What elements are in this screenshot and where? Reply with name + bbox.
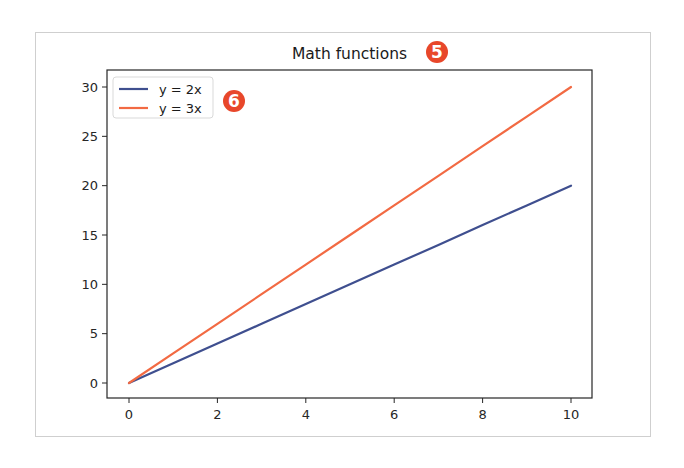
y-axis: 051015202530 — [81, 80, 107, 391]
legend-label-2: y = 3x — [159, 101, 202, 116]
y-tick-label: 15 — [81, 228, 98, 243]
series-line-2 — [129, 87, 571, 383]
y-tick-label: 25 — [81, 129, 98, 144]
x-tick-label: 6 — [390, 407, 398, 422]
series-group — [129, 87, 571, 383]
x-tick-label: 10 — [563, 407, 580, 422]
legend: y = 2xy = 3x — [113, 77, 213, 118]
x-tick-label: 8 — [478, 407, 486, 422]
x-tick-label: 0 — [125, 407, 133, 422]
legend-label-1: y = 2x — [159, 82, 202, 97]
y-tick-label: 10 — [81, 277, 98, 292]
x-tick-label: 2 — [213, 407, 221, 422]
x-tick-label: 4 — [302, 407, 310, 422]
series-line-1 — [129, 186, 571, 383]
y-tick-label: 0 — [90, 376, 98, 391]
y-tick-label: 20 — [81, 178, 98, 193]
annotation-badge-label: 5 — [431, 42, 443, 62]
x-axis: 0246810 — [125, 398, 579, 422]
annotation-badge-label: 6 — [228, 91, 240, 111]
y-tick-label: 30 — [81, 80, 98, 95]
y-tick-label: 5 — [90, 326, 98, 341]
chart-title: Math functions — [292, 45, 407, 63]
chart-canvas: Math functions 0246810 051015202530 y = … — [0, 0, 684, 468]
